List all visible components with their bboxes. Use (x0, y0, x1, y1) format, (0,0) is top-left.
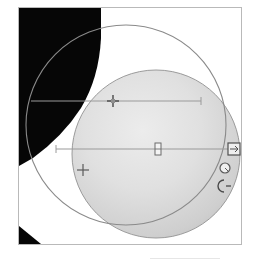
drawing-canvas[interactable] (18, 7, 242, 245)
center-node-handle[interactable] (155, 143, 161, 155)
circle-anchor-handle[interactable] (220, 163, 230, 173)
square-anchor-handle[interactable] (228, 143, 240, 155)
canvas-vector-layer (19, 8, 241, 244)
app-root (0, 0, 260, 264)
baseline-sliver (150, 258, 220, 259)
corner-black-triangle (19, 226, 41, 244)
